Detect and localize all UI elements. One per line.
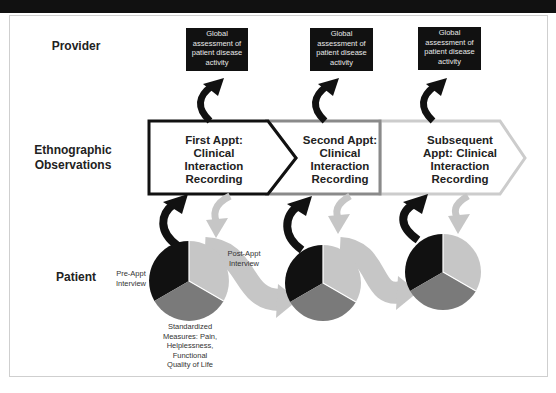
chevron-line: Recording [410, 173, 510, 186]
down-arrowheads [206, 214, 470, 238]
chevron-line: Interaction [410, 160, 510, 173]
row-label-patient: Patient [46, 270, 106, 285]
box-line: patient disease [186, 48, 248, 58]
row-label-ethnographic-line2: Observations [18, 158, 128, 173]
chevron-line: Clinical [168, 147, 260, 160]
appointment-first-label: First Appt: Clinical Interaction Recordi… [168, 134, 260, 186]
label-line: Interview [222, 259, 266, 269]
box-line: assessment of [418, 38, 481, 48]
appointment-second-label: Second Appt: Clinical Interaction Record… [298, 134, 382, 186]
chevron-line: Clinical [298, 147, 382, 160]
label-line: Pre-Appt [111, 269, 151, 279]
box-line: assessment of [310, 39, 373, 49]
box-line: activity [418, 57, 481, 67]
label-line: Helplessness, [150, 341, 230, 351]
provider-assessment-box-1: Global assessment of patient disease act… [186, 28, 248, 71]
box-line: Global [418, 28, 481, 38]
provider-assessment-box-3: Global assessment of patient disease act… [418, 27, 481, 70]
chevron-line: Second Appt: [298, 134, 382, 147]
post-appt-interview-label: Post-Appt Interview [222, 249, 266, 268]
label-line: Interview [111, 279, 151, 289]
chevron-line: Interaction [168, 160, 260, 173]
label-line: Quality of Life [150, 360, 230, 370]
row-label-ethnographic-line1: Ethnographic [18, 143, 128, 158]
box-line: assessment of [186, 39, 248, 49]
label-line: Standardized [150, 322, 230, 332]
chevron-line: First Appt: [168, 134, 260, 147]
provider-assessment-box-2: Global assessment of patient disease act… [310, 28, 373, 71]
pre-appt-interview-label: Pre-Appt Interview [111, 269, 151, 288]
chevron-line: Interaction [298, 160, 382, 173]
pie-third [405, 234, 481, 310]
chevron-line: Recording [298, 173, 382, 186]
arrow-up-provider-3 [423, 86, 435, 121]
box-line: Global [310, 29, 373, 39]
chevron-line: Recording [168, 173, 260, 186]
provider-arrows [200, 86, 435, 121]
standardized-measures-label: Standardized Measures: Pain, Helplessnes… [150, 322, 230, 370]
chevron-line: Subsequent [410, 134, 510, 147]
pie-second [285, 245, 361, 321]
appointment-subsequent-label: Subsequent Appt: Clinical Interaction Re… [410, 134, 510, 186]
label-line: Functional [150, 351, 230, 361]
row-label-provider: Provider [36, 39, 116, 54]
provider-arrowheads [203, 78, 447, 96]
label-line: Measures: Pain, [150, 332, 230, 342]
box-line: activity [310, 58, 373, 68]
arrow-up-provider-2 [315, 86, 327, 121]
pie-first [149, 241, 229, 321]
label-line: Post-Appt [222, 249, 266, 259]
box-line: Global [186, 29, 248, 39]
row-label-ethnographic: Ethnographic Observations [18, 143, 128, 173]
box-line: patient disease [418, 47, 481, 57]
box-line: patient disease [310, 48, 373, 58]
arrow-up-provider-1 [200, 86, 212, 121]
chevron-line: Appt: Clinical [410, 147, 510, 160]
box-line: activity [186, 58, 248, 68]
